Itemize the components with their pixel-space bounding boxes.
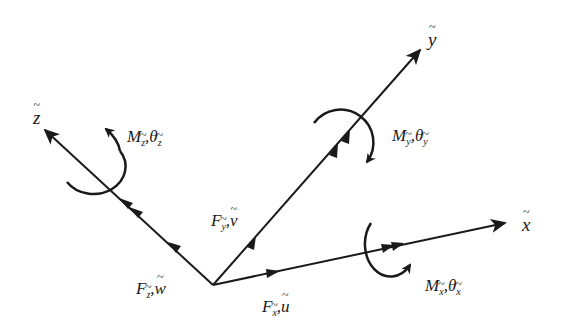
force-z-label: Fz,w [136,280,166,300]
coordinate-diagram [0,0,561,330]
force-x-label: Fx,u [262,298,290,318]
force-y-label: Fy,v [211,212,238,232]
axis-x [213,223,505,285]
moment-x-arc [365,223,410,277]
axis-x-label: x [522,215,530,234]
axis-y [213,50,420,285]
axis-z [45,130,213,285]
force-y-arrow-icon [247,236,256,250]
displacement-z-arrow-icon [129,207,143,218]
moment-x-label: Mx,θx [425,277,461,297]
moment-z-label: Mz,θz [127,128,162,148]
force-z-arrow-icon [168,242,181,253]
moment-y-label: My,θy [392,127,428,147]
axis-z-label: z [33,108,40,127]
axis-y-label: y [428,30,436,49]
moment-z-arc [67,129,126,194]
